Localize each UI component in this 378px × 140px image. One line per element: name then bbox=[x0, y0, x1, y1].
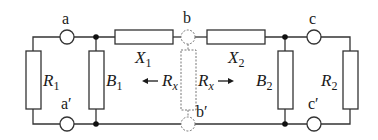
label-c: c bbox=[309, 10, 316, 27]
arrow-left-icon bbox=[142, 78, 158, 84]
reactance-x1 bbox=[115, 30, 173, 44]
terminal-c-prime bbox=[307, 117, 321, 131]
junction-dot-b2-bottom bbox=[282, 121, 288, 127]
resistor-r2 bbox=[343, 51, 358, 109]
label-x2: X2 bbox=[227, 48, 244, 70]
label-b2: B2 bbox=[256, 71, 272, 93]
terminal-a bbox=[60, 30, 74, 44]
junction-dot-b1-bottom bbox=[93, 121, 99, 127]
wire-c-r2-bottom bbox=[321, 109, 350, 124]
junction-dot-b1-top bbox=[93, 34, 99, 40]
label-r2: R2 bbox=[320, 71, 337, 93]
resistor-r1 bbox=[26, 51, 41, 109]
circuit-diagram: a a′ b b′ c c′ R1 B1 X1 X2 B2 R2 Rx Rx bbox=[0, 0, 378, 140]
label-b-prime: b′ bbox=[196, 103, 208, 120]
reactance-x2 bbox=[207, 30, 265, 44]
junction-dot-b2-top bbox=[282, 34, 288, 40]
label-rx-right: Rx bbox=[197, 71, 214, 93]
susceptance-b2 bbox=[278, 51, 293, 109]
rx-dashed-element bbox=[181, 44, 196, 117]
arrow-right-icon bbox=[218, 78, 234, 84]
wire-a-r1-bottom bbox=[33, 109, 60, 124]
terminal-b bbox=[181, 30, 195, 44]
label-b: b bbox=[183, 9, 191, 26]
label-a: a bbox=[62, 10, 69, 27]
terminal-b-prime bbox=[181, 117, 195, 131]
label-c-prime: c′ bbox=[308, 95, 319, 112]
wire-a-r1-top bbox=[33, 37, 60, 51]
wire-c-r2-top bbox=[321, 37, 350, 51]
terminal-c bbox=[307, 30, 321, 44]
label-r1: R1 bbox=[42, 71, 59, 93]
susceptance-b1 bbox=[89, 51, 104, 109]
label-b1: B1 bbox=[106, 71, 122, 93]
terminal-a-prime bbox=[60, 117, 74, 131]
label-rx-left: Rx bbox=[161, 71, 178, 93]
label-a-prime: a′ bbox=[61, 95, 72, 112]
label-x1: X1 bbox=[134, 48, 151, 70]
